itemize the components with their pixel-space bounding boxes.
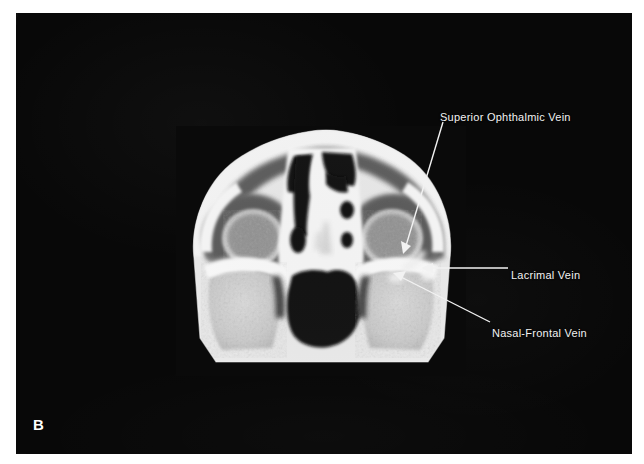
- annotation-label-nasal-frontal-vein: Nasal-Frontal Vein: [492, 327, 587, 339]
- annotation-label-superior-ophthalmic-vein: Superior Ophthalmic Vein: [440, 111, 571, 123]
- panel-letter: B: [33, 416, 44, 433]
- ct-scan-image: [176, 126, 466, 376]
- annotation-label-lacrimal-vein: Lacrimal Vein: [511, 269, 580, 281]
- figure-plate: Superior Ophthalmic Vein Lacrimal Vein N…: [16, 13, 632, 454]
